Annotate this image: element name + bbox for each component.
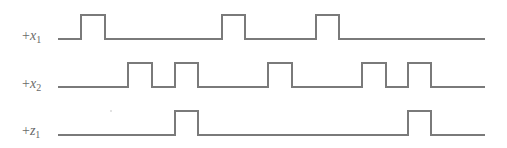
waveform-x2 bbox=[58, 63, 485, 87]
waveform-x1 bbox=[58, 15, 485, 39]
timing-diagram: +x1 +x2 +z1 bbox=[0, 0, 507, 148]
waveforms bbox=[0, 0, 507, 148]
scan-speck bbox=[110, 110, 112, 112]
waveform-z1 bbox=[58, 111, 485, 135]
